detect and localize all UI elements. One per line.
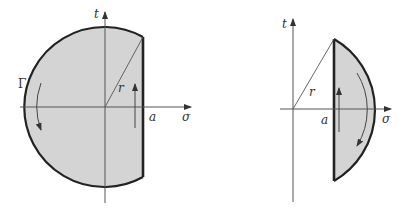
contour-diagrams: t σ a r Γ t σ a r — [0, 0, 411, 213]
right-t-label: t — [282, 17, 287, 31]
right-diagram: t σ a r — [280, 17, 391, 202]
left-t-label: t — [94, 7, 99, 21]
left-sigma-label: σ — [182, 110, 191, 124]
left-gamma-label: Γ — [18, 77, 26, 91]
left-diagram: t σ a r Γ — [18, 7, 191, 203]
right-region — [334, 39, 375, 181]
right-sigma-label: σ — [382, 112, 391, 126]
right-a-label: a — [321, 113, 328, 127]
right-r-label: r — [309, 85, 316, 99]
left-a-label: a — [149, 110, 156, 124]
